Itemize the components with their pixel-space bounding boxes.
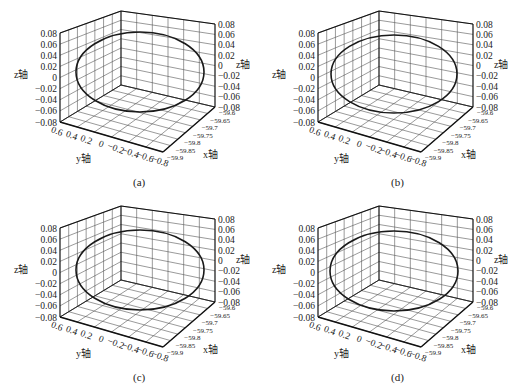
z-tick-label: 0.08 bbox=[218, 20, 235, 30]
z-tick-label: 0.02 bbox=[40, 62, 57, 72]
x-axis-label: x轴 bbox=[203, 148, 218, 160]
trajectory-curve bbox=[76, 230, 204, 310]
y-tick-label: 0 bbox=[97, 139, 105, 150]
z-tick-label: 0.08 bbox=[40, 224, 57, 234]
y-tick-label: 0 bbox=[355, 334, 363, 345]
z-tick-label: −0.02 bbox=[218, 71, 240, 81]
x-tick-label: −59.9 bbox=[167, 154, 184, 162]
z-axis-label-right: z轴 bbox=[494, 253, 508, 265]
z-axis-label-left: z轴 bbox=[14, 263, 28, 275]
z-tick-label: −0.02 bbox=[35, 279, 57, 289]
z-tick-label: −0.06 bbox=[293, 301, 315, 311]
grid-lines bbox=[318, 206, 473, 347]
grid-lines bbox=[318, 11, 473, 152]
z-tick-label: 0.08 bbox=[40, 29, 57, 39]
y-tick-label: 0.2 bbox=[79, 328, 94, 342]
y-ticks: 0.60.40.20−0.2−0.4−0.6−0.8 bbox=[308, 319, 428, 363]
z-tick-label: −0.06 bbox=[218, 287, 240, 297]
panel-caption: (b) bbox=[391, 176, 404, 188]
y-axis-label: y轴 bbox=[334, 152, 349, 164]
z-tick-label: −0.06 bbox=[218, 92, 240, 102]
z-ticks-left: 0.080.060.040.020−0.02−0.04−0.06−0.08 bbox=[35, 29, 57, 128]
z-ticks-left: 0.080.060.040.020−0.02−0.04−0.06−0.08 bbox=[293, 224, 315, 323]
z-tick-label: −0.02 bbox=[218, 266, 240, 276]
y-tick-label: 0.6 bbox=[50, 124, 65, 138]
z-tick-label: −0.04 bbox=[218, 82, 240, 92]
x-ticks: −59.6−59.65−59.7−59.75−59.8−59.85−59.9 bbox=[167, 109, 236, 162]
z-tick-label: 0.08 bbox=[476, 215, 493, 225]
z-tick-label: −0.06 bbox=[35, 301, 57, 311]
y-tick-label: 0.4 bbox=[64, 324, 79, 338]
z-tick-label: 0.02 bbox=[218, 246, 235, 256]
y-axis-label: y轴 bbox=[334, 347, 349, 359]
z-tick-label: 0.04 bbox=[40, 51, 57, 61]
z-tick-label: 0.04 bbox=[218, 235, 235, 245]
y-axis-label: y轴 bbox=[76, 347, 91, 359]
panel-a: 0.080.060.040.020−0.02−0.04−0.06−0.08z轴0… bbox=[0, 0, 258, 195]
z-tick-label: 0.04 bbox=[476, 40, 493, 50]
z-tick-label: 0 bbox=[218, 256, 223, 266]
z-tick-label: 0.02 bbox=[476, 51, 493, 61]
z-tick-label: 0.08 bbox=[476, 20, 493, 30]
z-tick-label: 0.02 bbox=[40, 257, 57, 267]
y-tick-label: 0.6 bbox=[308, 124, 323, 138]
z-axis-label-right: z轴 bbox=[236, 253, 250, 265]
x-tick-label: −59.9 bbox=[167, 349, 184, 357]
y-ticks: 0.60.40.20−0.2−0.4−0.6−0.8 bbox=[50, 124, 170, 168]
z-tick-label: 0.06 bbox=[218, 30, 235, 40]
z-tick-label: 0.06 bbox=[298, 40, 315, 50]
y-tick-label: 0.4 bbox=[322, 324, 337, 338]
z-tick-label: 0.04 bbox=[476, 235, 493, 245]
trajectory-curve bbox=[76, 32, 204, 112]
y-tick-label: 0 bbox=[97, 334, 105, 345]
x-tick-label: −59.9 bbox=[425, 349, 442, 357]
z-tick-label: 0 bbox=[218, 61, 223, 71]
z-tick-label: 0.08 bbox=[298, 29, 315, 39]
z-tick-label: −0.04 bbox=[35, 95, 57, 105]
z-tick-label: 0.06 bbox=[298, 235, 315, 245]
plot-3d-a: 0.080.060.040.020−0.02−0.04−0.06−0.08z轴0… bbox=[0, 0, 258, 195]
z-tick-label: 0.06 bbox=[476, 30, 493, 40]
z-tick-label: 0.08 bbox=[218, 215, 235, 225]
z-tick-label: 0.02 bbox=[218, 51, 235, 61]
z-tick-label: −0.06 bbox=[35, 106, 57, 116]
z-tick-label: −0.02 bbox=[35, 84, 57, 94]
z-tick-label: −0.04 bbox=[293, 95, 315, 105]
plot-3d-d: 0.080.060.040.020−0.02−0.04−0.06−0.08z轴0… bbox=[258, 195, 516, 390]
z-tick-label: 0.04 bbox=[298, 246, 315, 256]
z-tick-label: −0.04 bbox=[476, 277, 498, 287]
z-tick-label: −0.06 bbox=[293, 106, 315, 116]
z-tick-label: 0.06 bbox=[40, 40, 57, 50]
y-ticks: 0.60.40.20−0.2−0.4−0.6−0.8 bbox=[50, 319, 170, 363]
z-tick-label: −0.02 bbox=[293, 84, 315, 94]
z-tick-label: 0.06 bbox=[476, 225, 493, 235]
y-tick-label: 0.2 bbox=[79, 133, 94, 147]
z-tick-label: −0.04 bbox=[476, 82, 498, 92]
y-tick-label: 0.4 bbox=[322, 129, 337, 143]
z-tick-label: 0.02 bbox=[476, 246, 493, 256]
y-tick-label: 0.6 bbox=[308, 319, 323, 333]
z-tick-label: 0.06 bbox=[40, 235, 57, 245]
panel-caption: (c) bbox=[133, 371, 145, 383]
x-axis-label: x轴 bbox=[461, 148, 476, 160]
z-tick-label: −0.04 bbox=[218, 277, 240, 287]
z-ticks-left: 0.080.060.040.020−0.02−0.04−0.06−0.08 bbox=[293, 29, 315, 128]
z-tick-label: 0.02 bbox=[298, 62, 315, 72]
x-tick-label: −59.9 bbox=[425, 154, 442, 162]
panel-b: 0.080.060.040.020−0.02−0.04−0.06−0.08z轴0… bbox=[258, 0, 516, 195]
panel-caption: (a) bbox=[133, 176, 145, 188]
z-tick-label: 0.04 bbox=[218, 40, 235, 50]
z-tick-label: 0.02 bbox=[298, 257, 315, 267]
panel-c: 0.080.060.040.020−0.02−0.04−0.06−0.08z轴0… bbox=[0, 195, 258, 390]
z-tick-label: 0.08 bbox=[298, 224, 315, 234]
y-ticks: 0.60.40.20−0.2−0.4−0.6−0.8 bbox=[308, 124, 428, 168]
z-tick-label: 0 bbox=[476, 256, 481, 266]
trajectory-curve bbox=[331, 35, 457, 113]
grid-lines bbox=[60, 206, 215, 347]
z-tick-label: −0.06 bbox=[476, 92, 498, 102]
y-tick-label: 0.4 bbox=[64, 129, 79, 143]
z-axis-label-right: z轴 bbox=[494, 58, 508, 70]
z-ticks-left: 0.080.060.040.020−0.02−0.04−0.06−0.08 bbox=[35, 224, 57, 323]
z-tick-label: 0 bbox=[310, 268, 315, 278]
z-tick-label: −0.02 bbox=[476, 266, 498, 276]
